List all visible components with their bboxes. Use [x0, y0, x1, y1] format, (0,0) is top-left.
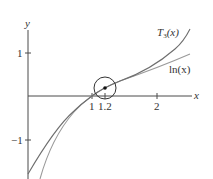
- taylor-plot: x y 1 1.2 2 1 −1 T3(x) ln(x): [0, 0, 213, 179]
- t3-label-arg: (x): [167, 26, 180, 39]
- x-tick-label-1-2: 1.2: [98, 100, 112, 112]
- x-tick-label-2: 2: [154, 100, 160, 112]
- x-axis-label: x: [193, 89, 199, 101]
- x-tick-label-1: 1: [89, 100, 95, 112]
- y-axis-label: y: [24, 17, 30, 29]
- y-tick-label-1: 1: [17, 47, 23, 59]
- ln-curve: [40, 54, 190, 179]
- y-tick-label-m1: −1: [11, 134, 23, 146]
- ln-label: ln(x): [169, 63, 191, 76]
- center-point: [103, 86, 107, 90]
- t3-label: T3(x): [157, 26, 179, 40]
